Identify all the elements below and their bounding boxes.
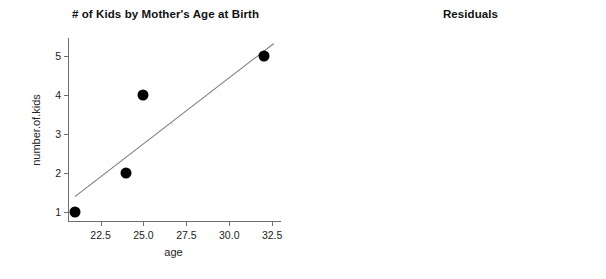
y-tick-mark xyxy=(64,212,68,213)
x-tick-mark xyxy=(143,222,144,226)
plot-area-kids: number.of.kids age 1234522.525.027.530.0… xyxy=(68,38,279,222)
y-tick-label: 5 xyxy=(55,50,61,62)
data-point xyxy=(69,207,80,218)
residuals-plot-panel: Residuals residuals age 1.00.50.0-0.522.… xyxy=(303,0,606,279)
x-tick-mark xyxy=(101,222,102,226)
scatter-plot-panel: # of Kids by Mother's Age at Birth numbe… xyxy=(0,0,303,279)
y-tick-label: 1 xyxy=(55,206,61,218)
data-point xyxy=(121,168,132,179)
y-tick-mark xyxy=(64,134,68,135)
y-tick-mark xyxy=(64,95,68,96)
x-tick-label: 30.0 xyxy=(219,229,239,241)
figure-panel-container: # of Kids by Mother's Age at Birth numbe… xyxy=(0,0,606,279)
x-tick-mark xyxy=(272,222,273,226)
x-tick-label: 22.5 xyxy=(90,229,110,241)
x-tick-label: 32.5 xyxy=(262,229,282,241)
y-axis-spine xyxy=(68,38,69,222)
y-tick-label: 4 xyxy=(55,89,61,101)
data-point xyxy=(138,89,149,100)
data-point xyxy=(258,50,269,61)
x-tick-label: 25.0 xyxy=(133,229,153,241)
x-tick-label: 27.5 xyxy=(176,229,196,241)
y-tick-mark xyxy=(64,173,68,174)
x-tick-mark xyxy=(186,222,187,226)
x-axis-label-kids: age xyxy=(68,246,279,258)
chart-title-kids: # of Kids by Mother's Age at Birth xyxy=(0,8,317,20)
chart-title-residuals: Residuals xyxy=(303,8,606,20)
regression-line xyxy=(74,43,274,197)
y-tick-mark xyxy=(64,56,68,57)
x-tick-mark xyxy=(229,222,230,226)
y-axis-label-kids: number.of.kids xyxy=(30,94,42,166)
y-tick-label: 3 xyxy=(55,128,61,140)
y-tick-label: 2 xyxy=(55,167,61,179)
